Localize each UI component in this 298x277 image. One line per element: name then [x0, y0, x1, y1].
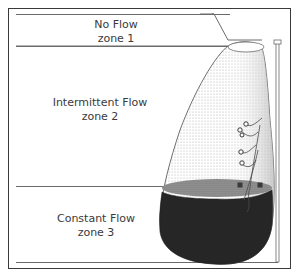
fluid-surface [162, 179, 272, 197]
dark-fluid [160, 190, 273, 264]
trachea-tube [276, 42, 279, 262]
lung-apex [228, 42, 264, 52]
lung-illustration [0, 0, 298, 277]
